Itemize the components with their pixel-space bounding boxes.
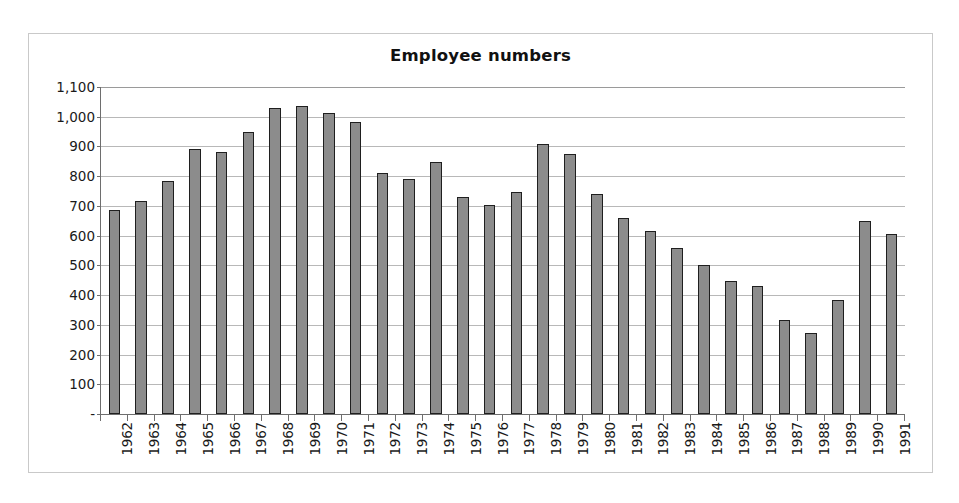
x-axis-tick-label: 1966	[227, 422, 243, 474]
x-axis-tick-mark	[556, 414, 557, 421]
bar	[779, 320, 791, 414]
x-axis-tick-label: 1964	[173, 422, 189, 474]
x-axis-tick-label: 1991	[897, 422, 913, 474]
x-axis-tick-mark	[797, 414, 798, 421]
bar	[216, 152, 228, 414]
x-axis-tick-label: 1968	[280, 422, 296, 474]
y-axis-labels: 1,1001,000900800700600500400300200100-	[29, 87, 95, 414]
x-axis-tick-mark	[234, 414, 235, 421]
x-axis-tick-mark	[904, 414, 905, 421]
x-axis-tick-label: 1984	[709, 422, 725, 474]
bar	[484, 205, 496, 414]
bar	[350, 122, 362, 414]
y-axis-tick-label: 200	[31, 347, 95, 363]
x-axis-tick-mark	[288, 414, 289, 421]
x-axis-tick-label: 1962	[119, 422, 135, 474]
chart-card: Employee numbers 1,1001,0009008007006005…	[28, 33, 933, 473]
x-axis-tick-label: 1978	[548, 422, 564, 474]
bar	[618, 218, 630, 414]
x-axis-tick-label: 1967	[253, 422, 269, 474]
bar	[323, 113, 335, 414]
x-axis-labels: 1962196319641965196619671968196919701971…	[100, 422, 904, 474]
x-axis-tick-mark	[368, 414, 369, 421]
y-axis-tick-label: 1,100	[31, 79, 95, 95]
y-axis-tick-label: 900	[31, 138, 95, 154]
bar	[698, 265, 710, 414]
bar	[886, 234, 898, 414]
x-axis-tick-mark	[716, 414, 717, 421]
x-axis-tick-mark	[127, 414, 128, 421]
x-axis-tick-label: 1983	[682, 422, 698, 474]
x-axis-tick-label: 1985	[736, 422, 752, 474]
bar-series	[101, 87, 905, 414]
bar	[269, 108, 281, 414]
x-axis-tick-label: 1977	[521, 422, 537, 474]
x-axis-tick-label: 1982	[655, 422, 671, 474]
bar	[430, 162, 442, 414]
x-axis-tick-label: 1976	[495, 422, 511, 474]
y-axis-tick-label: 100	[31, 376, 95, 392]
x-axis-tick-label: 1973	[414, 422, 430, 474]
chart-title: Employee numbers	[29, 46, 932, 65]
x-axis-tick-label: 1974	[441, 422, 457, 474]
x-axis-tick-label: 1965	[200, 422, 216, 474]
x-axis-tick-mark	[609, 414, 610, 421]
y-axis-tick-label: 400	[31, 287, 95, 303]
bar	[752, 286, 764, 414]
x-axis-tick-label: 1969	[307, 422, 323, 474]
x-axis-tick-mark	[663, 414, 664, 421]
bar	[296, 106, 308, 414]
y-axis-tick-label: -	[31, 406, 95, 422]
bar	[645, 231, 657, 414]
bar	[805, 333, 817, 414]
bar	[537, 144, 549, 414]
bar	[725, 281, 737, 414]
bar	[591, 194, 603, 414]
x-axis-tick-mark	[743, 414, 744, 421]
y-axis-tick-label: 1,000	[31, 109, 95, 125]
y-axis-tick-label: 800	[31, 168, 95, 184]
x-axis-tick-mark	[529, 414, 530, 421]
x-axis-tick-mark	[395, 414, 396, 421]
bar	[564, 154, 576, 414]
x-axis-tick-mark	[341, 414, 342, 421]
x-axis-tick-mark	[475, 414, 476, 421]
x-axis-tick-mark	[690, 414, 691, 421]
x-axis-tick-mark	[180, 414, 181, 421]
x-axis-tick-label: 1975	[468, 422, 484, 474]
x-axis-tick-label: 1972	[387, 422, 403, 474]
plot-area	[100, 87, 905, 415]
x-axis-tick-label: 1979	[575, 422, 591, 474]
bar	[457, 197, 469, 414]
bar	[377, 173, 389, 414]
bar	[189, 149, 201, 414]
x-axis-tick-mark	[877, 414, 878, 421]
x-axis-tick-label: 1980	[602, 422, 618, 474]
x-axis-tick-mark	[824, 414, 825, 421]
x-axis-tick-label: 1988	[816, 422, 832, 474]
x-axis-tick-mark	[582, 414, 583, 421]
x-axis-ticks	[100, 414, 904, 422]
bar	[403, 179, 415, 414]
x-axis-tick-mark	[207, 414, 208, 421]
x-axis-tick-label: 1987	[789, 422, 805, 474]
x-axis-tick-label: 1990	[870, 422, 886, 474]
x-axis-tick-label: 1963	[146, 422, 162, 474]
x-axis-tick-mark	[850, 414, 851, 421]
x-axis-tick-label: 1986	[763, 422, 779, 474]
x-axis-tick-mark	[261, 414, 262, 421]
x-axis-tick-mark	[422, 414, 423, 421]
bar	[135, 201, 147, 414]
x-axis-tick-label: 1981	[629, 422, 645, 474]
x-axis-tick-mark	[636, 414, 637, 421]
y-axis-tick-label: 700	[31, 198, 95, 214]
x-axis-tick-label: 1989	[843, 422, 859, 474]
x-axis-tick-mark	[100, 414, 101, 421]
y-axis-tick-label: 600	[31, 228, 95, 244]
bar	[162, 181, 174, 414]
x-axis-tick-mark	[502, 414, 503, 421]
bar	[671, 248, 683, 414]
bar	[832, 300, 844, 414]
bar	[109, 210, 121, 414]
bar	[243, 132, 255, 414]
